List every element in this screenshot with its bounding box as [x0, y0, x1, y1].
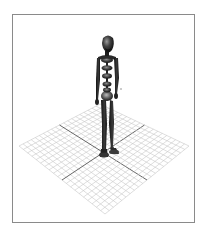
- right-arm: [114, 58, 122, 99]
- skeleton-figure: [95, 36, 122, 158]
- spine: [101, 55, 113, 92]
- left-arm: [95, 58, 100, 105]
- pelvis: [101, 91, 113, 101]
- 3d-scene: [0, 0, 207, 236]
- grid-line: [96, 142, 180, 207]
